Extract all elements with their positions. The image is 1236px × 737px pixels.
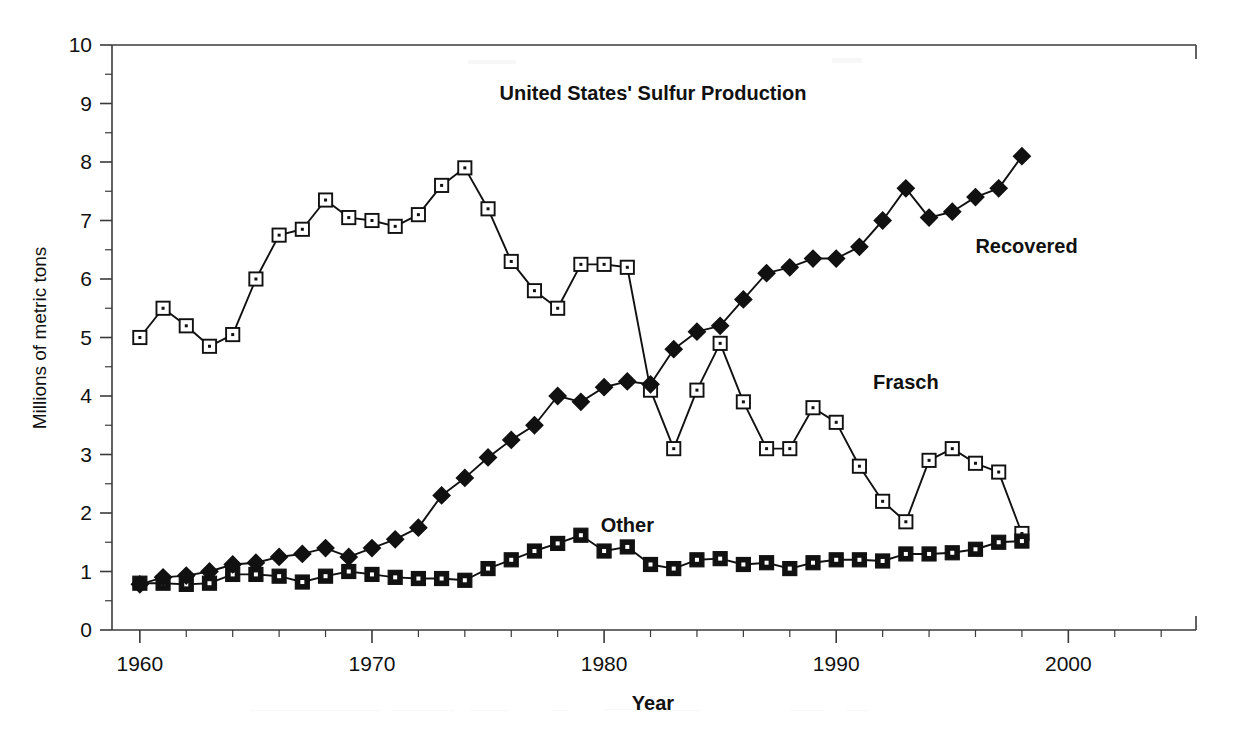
data-point-marker-center (579, 263, 582, 266)
data-point-marker-center (765, 447, 768, 450)
y-tick-label: 10 (69, 33, 92, 56)
data-point-marker-center (556, 307, 559, 310)
data-point-marker-center (347, 216, 350, 219)
data-point-marker-center (300, 580, 304, 584)
data-point-marker-center (788, 567, 792, 571)
data-point-marker-center (394, 225, 397, 228)
data-point-marker-center (718, 557, 722, 561)
data-point-marker-center (487, 207, 490, 210)
data-point-marker-center (532, 549, 536, 553)
y-tick-label: 0 (80, 618, 92, 641)
data-point-marker-center (417, 213, 420, 216)
series-annotation-recovered: Recovered (975, 235, 1077, 257)
data-point-marker-center (510, 260, 513, 263)
data-point-marker-center (254, 572, 258, 576)
y-tick-label: 4 (80, 384, 92, 407)
data-point-marker-center (208, 345, 211, 348)
data-point-marker-center (950, 551, 954, 555)
sulfur-production-line-chart: 012345678910 19601970198019902000 United… (0, 0, 1236, 737)
data-point-marker-center (904, 552, 908, 556)
x-tick-label: 1960 (116, 652, 163, 675)
data-point-marker-center (162, 307, 165, 310)
y-tick-label: 9 (80, 92, 92, 115)
data-point-marker-center (857, 558, 861, 562)
data-point-marker-center (463, 166, 466, 169)
y-tick-label: 3 (80, 443, 92, 466)
data-point-marker-center (138, 336, 141, 339)
data-point-marker-center (301, 228, 304, 231)
data-point-marker-center (835, 421, 838, 424)
data-point-marker-center (324, 199, 327, 202)
data-point-marker-center (324, 574, 328, 578)
data-point-marker-center (370, 219, 373, 222)
x-tick-label: 1990 (813, 652, 860, 675)
data-point-marker-center (207, 581, 211, 585)
data-point-marker-center (440, 184, 443, 187)
data-point-marker-center (997, 471, 1000, 474)
x-tick-label: 2000 (1045, 652, 1092, 675)
x-axis-title: Year (632, 692, 674, 714)
data-point-marker-center (486, 567, 490, 571)
chart-title: United States' Sulfur Production (500, 82, 807, 104)
data-point-marker-center (393, 575, 397, 579)
y-tick-label: 7 (80, 209, 92, 232)
data-point-marker-center (811, 561, 815, 565)
data-point-marker-center (881, 500, 884, 503)
series-annotation-other: Other (601, 514, 655, 536)
y-tick-label: 2 (80, 501, 92, 524)
y-axis-title: Millions of metric tons (29, 247, 50, 430)
data-point-marker-center (370, 572, 374, 576)
data-point-marker-center (858, 465, 861, 468)
data-point-marker-center (672, 447, 675, 450)
data-point-marker-center (626, 266, 629, 269)
data-point-marker-center (347, 570, 351, 574)
data-point-marker-center (881, 559, 885, 563)
data-point-marker-center (812, 406, 815, 409)
data-point-marker-center (695, 558, 699, 562)
data-point-marker-center (649, 562, 653, 566)
x-tick-label: 1980 (581, 652, 628, 675)
series-annotation-frasch: Frasch (873, 371, 939, 393)
data-point-marker-center (254, 278, 257, 281)
data-point-marker-center (603, 263, 606, 266)
data-point-marker-center (579, 533, 583, 537)
x-tick-label: 1970 (349, 652, 396, 675)
data-point-marker-center (463, 578, 467, 582)
data-point-marker-center (997, 540, 1001, 544)
data-point-marker-center (625, 545, 629, 549)
data-point-marker-center (742, 400, 745, 403)
data-point-marker-center (1020, 539, 1024, 543)
data-point-marker-center (185, 324, 188, 327)
data-point-marker-center (672, 567, 676, 571)
data-point-marker-center (440, 577, 444, 581)
y-tick-label: 8 (80, 150, 92, 173)
data-point-marker-center (765, 561, 769, 565)
data-point-marker-center (834, 558, 838, 562)
data-point-marker-center (695, 389, 698, 392)
data-point-marker-center (741, 562, 745, 566)
data-point-marker-center (788, 447, 791, 450)
data-point-marker-center (927, 552, 931, 556)
chart-background (0, 0, 1236, 737)
data-point-marker-center (951, 447, 954, 450)
data-point-marker-center (719, 342, 722, 345)
data-point-marker-center (904, 520, 907, 523)
data-point-marker-center (277, 574, 281, 578)
data-point-marker-center (602, 549, 606, 553)
data-point-marker-center (278, 234, 281, 237)
data-point-marker-center (416, 577, 420, 581)
data-point-marker-center (973, 547, 977, 551)
y-tick-label: 1 (80, 560, 92, 583)
data-point-marker-center (509, 558, 513, 562)
chart-container: 012345678910 19601970198019902000 United… (0, 0, 1236, 737)
data-point-marker-center (974, 462, 977, 465)
data-point-marker-center (556, 541, 560, 545)
data-point-marker-center (231, 333, 234, 336)
data-point-marker-center (533, 289, 536, 292)
y-tick-label: 6 (80, 267, 92, 290)
data-point-marker-center (928, 459, 931, 462)
y-tick-label: 5 (80, 326, 92, 349)
